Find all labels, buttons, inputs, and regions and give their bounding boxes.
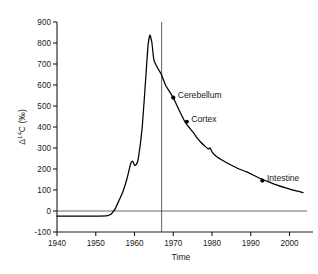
y-tick-label: 100	[37, 186, 51, 195]
y-tick-label: 600	[37, 81, 51, 90]
y-tick-label: 700	[37, 60, 51, 69]
y-tick-label: 500	[37, 102, 51, 111]
x-tick-label: 1950	[87, 239, 106, 248]
y-tick-label: 800	[37, 39, 51, 48]
data-curve	[57, 35, 303, 216]
y-axis-title: Δ14C (‰)	[16, 109, 27, 145]
annotation-dot	[171, 96, 175, 100]
x-tick-label: 2000	[280, 239, 299, 248]
annotation-label: Cerebellum	[178, 90, 222, 100]
x-axis-title: Time	[172, 252, 191, 262]
bomb-curve-line-chart: -100010020030040050060070080090019401950…	[0, 0, 318, 274]
chart-container: -100010020030040050060070080090019401950…	[0, 0, 318, 274]
annotation-label: Intestine	[267, 173, 300, 183]
annotation-dot	[260, 178, 264, 182]
annotation-dot	[185, 120, 189, 124]
plot-area: -100010020030040050060070080090019401950…	[16, 18, 313, 262]
y-tick-label: 200	[37, 165, 51, 174]
x-tick-label: 1980	[203, 239, 222, 248]
x-tick-label: 1960	[125, 239, 144, 248]
x-tick-label: 1990	[242, 239, 261, 248]
x-tick-label: 1970	[164, 239, 183, 248]
annotation-label: Cortex	[191, 114, 217, 124]
y-tick-label: 400	[37, 123, 51, 132]
y-tick-label: -100	[35, 228, 52, 237]
y-tick-label: 300	[37, 144, 51, 153]
x-tick-label: 1940	[48, 239, 67, 248]
y-tick-label: 0	[46, 207, 51, 216]
y-axis-title-suffix: C (‰)	[17, 109, 27, 132]
y-tick-label: 900	[37, 18, 51, 27]
